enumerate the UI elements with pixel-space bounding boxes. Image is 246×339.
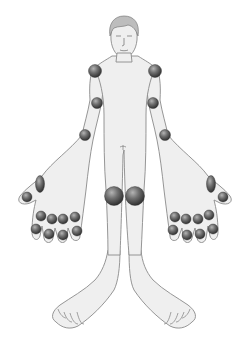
left-pip-3-joint-marker — [44, 229, 54, 239]
left-elbow-joint-marker — [92, 98, 103, 109]
right-mcp-4-joint-marker — [181, 214, 191, 224]
right-thumb-cmc-joint-marker — [207, 176, 216, 193]
left-knee-joint-marker — [105, 187, 124, 206]
left-pip-2-joint-marker — [31, 224, 41, 234]
right-pip-5-joint-marker — [168, 225, 178, 235]
left-wrist-joint-marker — [80, 130, 91, 141]
right-knee-joint-marker — [126, 187, 145, 206]
joint-map-figure — [0, 0, 246, 339]
right-mcp-2-joint-marker — [204, 210, 214, 220]
torso — [95, 56, 155, 255]
left-pip-5-joint-marker — [72, 226, 82, 236]
right-pip-4-joint-marker — [182, 230, 192, 240]
left-mcp-4-joint-marker — [58, 214, 68, 224]
head — [110, 16, 139, 62]
right-pip-3-joint-marker — [195, 229, 205, 239]
right-thumb-ip-joint-marker — [218, 192, 228, 202]
right-elbow-joint-marker — [148, 98, 159, 109]
right-pip-2-joint-marker — [208, 224, 218, 234]
right-foot — [129, 250, 195, 328]
right-wrist-joint-marker — [160, 130, 171, 141]
left-foot — [53, 250, 120, 328]
left-shoulder-joint-marker — [89, 65, 102, 78]
left-thumb-cmc-joint-marker — [36, 176, 45, 193]
left-thumb-ip-joint-marker — [22, 192, 32, 202]
left-mcp-2-joint-marker — [36, 211, 46, 221]
left-pip-4-joint-marker — [58, 230, 68, 240]
right-mcp-3-joint-marker — [193, 214, 203, 224]
right-mcp-5-joint-marker — [170, 212, 180, 222]
left-mcp-3-joint-marker — [47, 214, 57, 224]
right-shoulder-joint-marker — [149, 65, 162, 78]
left-mcp-5-joint-marker — [70, 212, 80, 222]
